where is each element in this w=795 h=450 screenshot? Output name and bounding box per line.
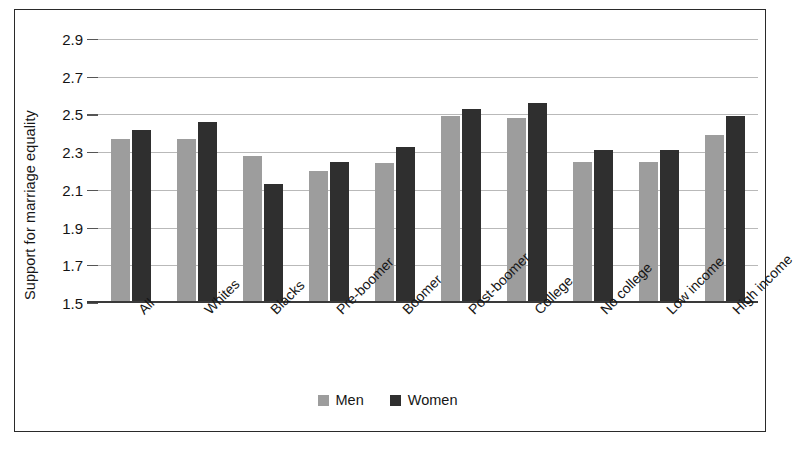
y-axis-tick-mark: [87, 39, 98, 40]
y-axis-tick-label: 1.5: [62, 295, 83, 312]
bar-group: [309, 39, 349, 303]
bar-women: [396, 147, 415, 304]
y-axis-tick-label: 2.7: [62, 68, 83, 85]
legend-item-women: Women: [390, 392, 458, 408]
legend-label: Men: [336, 392, 364, 408]
y-axis-tick-label: 2.9: [62, 31, 83, 48]
y-axis-tick-label: 2.1: [62, 181, 83, 198]
bar-men: [441, 116, 460, 303]
y-axis-tick-label: 2.3: [62, 144, 83, 161]
y-axis-tick-mark: [87, 265, 98, 266]
bar-women: [264, 184, 283, 303]
bar-women: [528, 103, 547, 303]
bar-group: [441, 39, 481, 303]
bar-men: [309, 171, 328, 303]
y-axis-tick-mark: [87, 190, 98, 191]
y-axis-tick-label: 1.9: [62, 219, 83, 236]
y-axis-tick-mark: [87, 152, 98, 153]
bar-women: [660, 150, 679, 303]
y-axis-tick-label: 1.7: [62, 257, 83, 274]
y-axis-title: Support for marriage equality: [22, 40, 42, 300]
bar-group: [111, 39, 151, 303]
legend-swatch-icon: [318, 395, 329, 406]
bar-women: [462, 109, 481, 303]
bar-men: [111, 139, 130, 303]
bar-women: [198, 122, 217, 303]
bar-women: [726, 116, 745, 303]
bar-men: [573, 162, 592, 303]
y-axis-tick-label: 2.5: [62, 106, 83, 123]
bar-group: [243, 39, 283, 303]
plot-area: 2.92.72.52.32.11.91.71.5: [98, 39, 758, 303]
x-axis-tick-labels: AllWhitesBlacksPre-boomerBoomerPost-boom…: [98, 306, 758, 386]
y-axis-tick-mark: [87, 114, 98, 115]
bar-women: [132, 130, 151, 303]
bar-men: [177, 139, 196, 303]
legend-item-men: Men: [318, 392, 364, 408]
y-axis-tick-mark: [87, 77, 98, 78]
legend-swatch-icon: [390, 395, 401, 406]
bar-group: [573, 39, 613, 303]
bar-women: [330, 162, 349, 303]
y-axis-tick-mark: [87, 303, 98, 304]
y-axis-tick-mark: [87, 228, 98, 229]
bar-men: [243, 156, 262, 303]
chart-legend: MenWomen: [0, 392, 775, 408]
bar-women: [594, 150, 613, 303]
bar-group: [177, 39, 217, 303]
legend-label: Women: [408, 392, 458, 408]
bar-groups: [98, 39, 758, 303]
